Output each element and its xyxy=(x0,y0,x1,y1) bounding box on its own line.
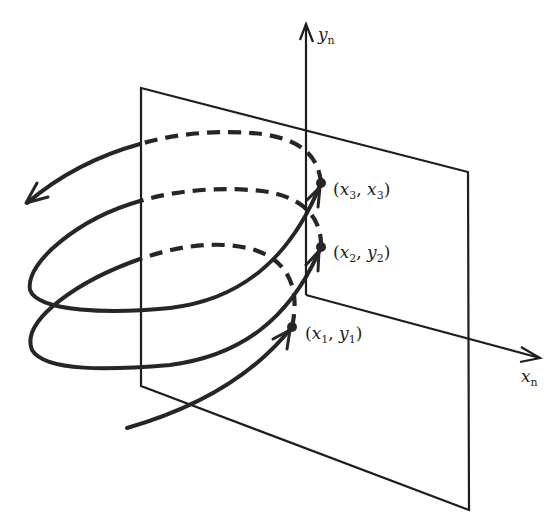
point-label-1: (x1, y1) xyxy=(305,323,362,346)
intersection-point-1 xyxy=(287,322,297,332)
point-label-3: (x3, x3) xyxy=(333,179,390,202)
point-label-2: (x2, y2) xyxy=(333,242,390,265)
trajectory-exit xyxy=(27,144,140,203)
intersection-point-2 xyxy=(316,242,326,252)
trajectory-loop3-back xyxy=(140,132,321,183)
trajectory-loop1-back xyxy=(140,245,295,327)
poincare-section-diagram: yn xn (x3, x3) (x2, y2) (x1, y1) xyxy=(0,0,559,528)
x-axis-label: xn xyxy=(521,366,538,389)
intersection-point-3 xyxy=(316,178,326,188)
y-axis-label: yn xyxy=(317,24,335,47)
trajectory-loop2-back xyxy=(140,189,321,247)
